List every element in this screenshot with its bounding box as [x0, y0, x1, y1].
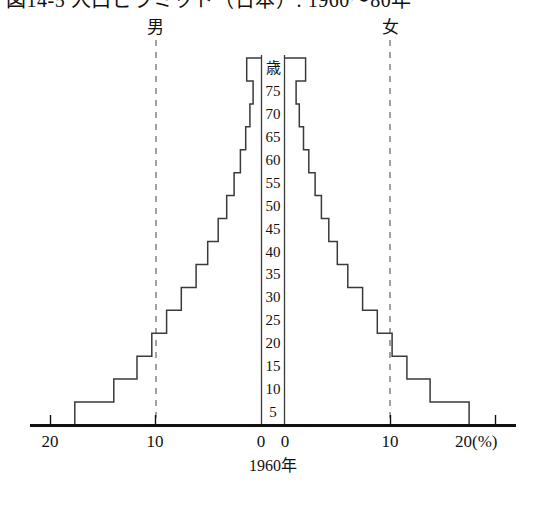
age-tick-label: 40 — [262, 245, 284, 260]
age-tick-label: 25 — [262, 313, 284, 328]
population-pyramid-figure: 図14-5 人口ピラミッド（日本）: 1960〜80年 男 女 歳7570656… — [0, 0, 546, 516]
age-tick-label: 歳 — [262, 61, 284, 76]
x-tick-right-10: 10 — [367, 432, 413, 452]
age-tick-label: 20 — [262, 336, 284, 351]
age-tick-label: 35 — [262, 267, 284, 282]
age-tick-label: 60 — [262, 153, 284, 168]
female-bars — [285, 58, 470, 425]
age-tick-label: 70 — [262, 107, 284, 122]
x-tick-left-20: 20 — [27, 432, 73, 452]
age-tick-label: 65 — [262, 130, 284, 145]
male-pyramid-outline — [75, 58, 262, 425]
age-tick-label: 5 — [262, 405, 284, 420]
age-tick-label: 15 — [262, 359, 284, 374]
male-bars — [75, 58, 262, 425]
age-axis-labels: 歳75706560555045403530252015105 — [262, 58, 284, 425]
x-axis-caption: 1960年 — [0, 456, 546, 475]
age-tick-label: 45 — [262, 222, 284, 237]
age-tick-label: 30 — [262, 290, 284, 305]
x-tick-left-10: 10 — [132, 432, 178, 452]
age-tick-label: 55 — [262, 176, 284, 191]
age-tick-label: 75 — [262, 84, 284, 99]
age-tick-label: 10 — [262, 382, 284, 397]
x-tick-right-0: 0 — [262, 432, 308, 452]
female-pyramid-outline — [285, 58, 470, 425]
age-tick-label: 50 — [262, 199, 284, 214]
x-tick-right-20: 20(%) — [455, 432, 525, 452]
